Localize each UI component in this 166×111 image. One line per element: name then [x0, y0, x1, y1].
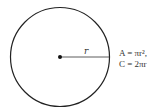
radius-label: r — [84, 46, 89, 56]
area-formula: A = πr², — [119, 48, 147, 58]
center-point — [58, 55, 62, 59]
circumference-formula: C = 2πr — [119, 59, 147, 69]
